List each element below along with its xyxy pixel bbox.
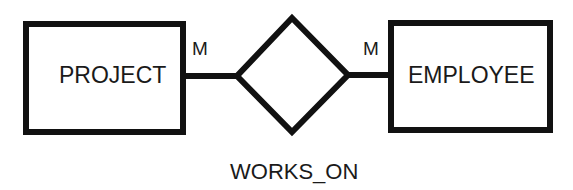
er-diagram-canvas: PROJECT EMPLOYEE WORKS_ON M M: [0, 0, 573, 190]
cardinality-label-project: M: [192, 39, 208, 58]
cardinality-label-employee: M: [363, 39, 379, 58]
entity-label-project: PROJECT: [59, 64, 166, 87]
entity-label-employee: EMPLOYEE: [408, 64, 535, 87]
relationship-label-works-on: WORKS_ON: [230, 161, 358, 183]
relationship-diamond-works-on: [237, 18, 348, 132]
